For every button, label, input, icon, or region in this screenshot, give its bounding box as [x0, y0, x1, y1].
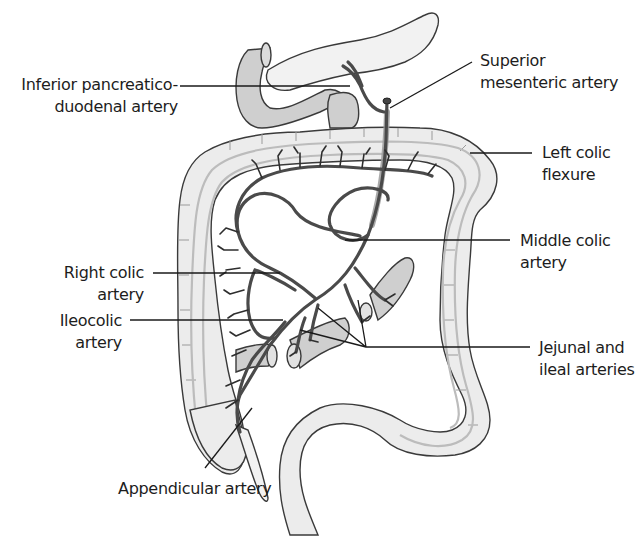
label-appendicular-artery: Appendicular artery [118, 478, 272, 500]
label-ileocolic-artery: Ileocolic artery [30, 310, 122, 354]
label-line: ileal arteries [539, 359, 635, 381]
jejunum-cut-end [287, 344, 301, 368]
label-right-colic-artery: Right colic artery [30, 262, 144, 306]
label-line: Right colic [30, 262, 144, 284]
label-left-colic-flexure: Left colic flexure [542, 142, 610, 186]
label-superior-mesenteric-artery: Superior mesenteric artery [480, 50, 618, 94]
label-line: Superior [480, 50, 618, 72]
label-middle-colic-artery: Middle colic artery [520, 230, 611, 274]
label-line: Ileocolic [30, 310, 122, 332]
label-line: artery [520, 252, 611, 274]
label-line: Left colic [542, 142, 610, 164]
marginal-artery [236, 166, 432, 232]
label-inferior-pancreaticoduodenal-artery: Inferior pancreatico- duodenal artery [2, 74, 178, 118]
sma-origin [383, 98, 391, 104]
label-line: Middle colic [520, 230, 611, 252]
label-line: artery [30, 332, 122, 354]
right-colic-arcade [248, 270, 295, 338]
pancreas [267, 13, 439, 90]
duodenum-opening [261, 43, 271, 67]
label-line: mesenteric artery [480, 72, 618, 94]
label-jejunal-and-ileal-arteries: Jejunal and ileal arteries [539, 337, 635, 381]
duodenojejunal-part [328, 92, 359, 128]
label-line: flexure [542, 164, 610, 186]
leader-superior-mesenteric [390, 62, 472, 108]
label-line: artery [30, 284, 144, 306]
label-line: Inferior pancreatico- [2, 74, 178, 96]
label-line: Jejunal and [539, 337, 635, 359]
label-line: duodenal artery [2, 96, 178, 118]
ileum-loop [370, 258, 414, 320]
label-line: Appendicular artery [118, 478, 272, 500]
